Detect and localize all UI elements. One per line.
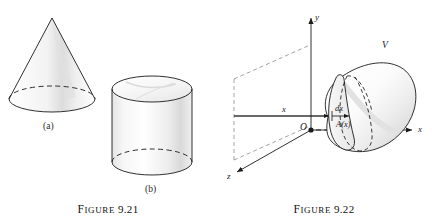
figure-9-22-graphic <box>216 0 432 200</box>
dx-label: dx <box>335 103 343 113</box>
x-distance-label: x <box>282 104 286 114</box>
origin-label: O <box>300 122 307 132</box>
volume-label: V <box>382 40 388 50</box>
caption-lead-letter: F <box>294 203 301 215</box>
cone-body-fill <box>9 18 95 112</box>
caption-lead-letter: F <box>78 203 85 215</box>
area-function-label: A(x) <box>336 119 351 129</box>
subfigure-label-a: (a) <box>43 121 54 131</box>
figure-9-22-caption: FIGURE9.22 <box>216 203 432 215</box>
cone-shape <box>9 18 95 112</box>
plane-top-edge <box>234 45 310 79</box>
figure-9-21-panel: (a) (b) FIGURE9.21 <box>0 0 216 223</box>
z-axis-label: z <box>227 171 231 181</box>
cylinder-shape <box>112 76 192 175</box>
x-axis-label: x <box>418 124 422 134</box>
plane-bottom-edge <box>234 126 310 160</box>
z-axis <box>237 130 311 172</box>
caption-word: IGURE <box>301 205 332 215</box>
figure-9-21-caption: FIGURE9.21 <box>0 203 216 215</box>
figure-9-21-graphic <box>0 0 216 200</box>
origin-dot <box>308 127 313 132</box>
caption-word: IGURE <box>85 205 116 215</box>
caption-number: 9.22 <box>331 203 354 215</box>
subfigure-label-b: (b) <box>145 184 156 194</box>
caption-number: 9.21 <box>115 203 138 215</box>
coordinate-plane <box>234 45 310 160</box>
figure-9-22-panel: y x z O x dx A(x) V FIGURE9.22 <box>216 0 432 223</box>
y-axis-label: y <box>315 12 319 22</box>
